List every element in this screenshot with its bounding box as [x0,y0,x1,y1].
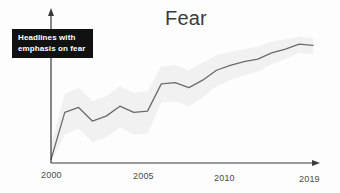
callout-line-1: Headlines with [18,33,93,44]
x-axis-arrow-icon [312,160,320,166]
x-tick-label-2010: 2010 [214,173,235,183]
callout-line-2: emphasis on fear [18,44,93,55]
fear-callout-annotation: Headlines with emphasis on fear [12,29,93,58]
page-title: Fear [126,6,246,30]
x-tick-label-2019: 2019 [299,174,320,184]
y-axis-arrow-icon [48,8,54,16]
fear-line-chart: Fear Headlines with emphasis on fear 200… [0,0,340,193]
x-tick-label-2000: 2000 [41,170,62,180]
x-tick-label-2005: 2005 [133,171,154,181]
